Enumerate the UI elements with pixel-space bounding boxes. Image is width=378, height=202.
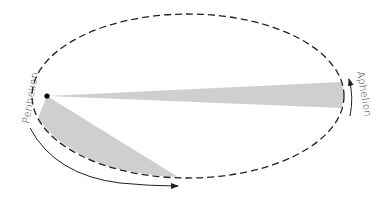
- aphelion-label: Aphelion: [355, 70, 374, 117]
- orbit-diagram: Perihelion Aphelion: [0, 0, 378, 202]
- perihelion-label: Perihelion: [20, 71, 40, 124]
- sun-dot: [44, 93, 49, 98]
- aphelion-arrow-icon: [349, 79, 352, 116]
- aphelion-swept-area: [47, 82, 344, 108]
- perihelion-swept-area: [38, 96, 178, 177]
